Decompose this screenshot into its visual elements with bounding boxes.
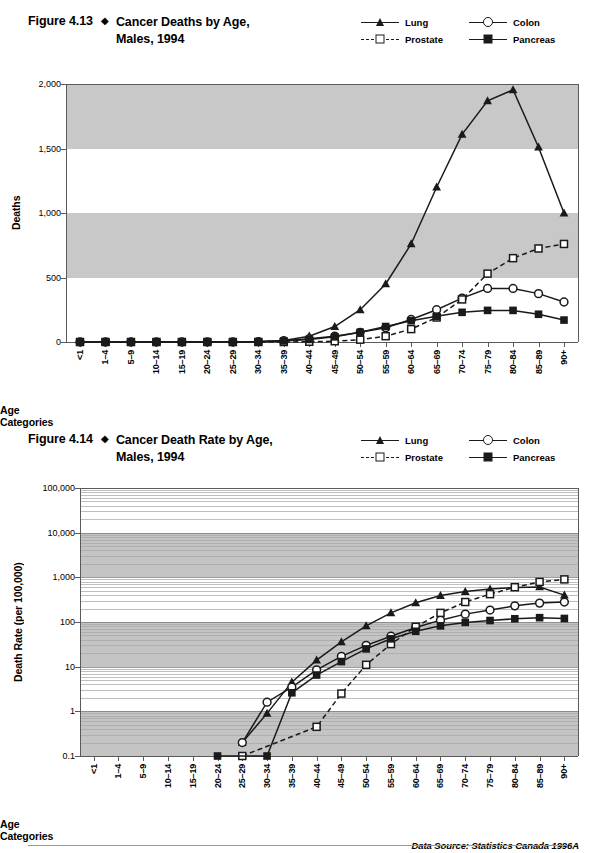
data-point-marker — [486, 617, 494, 625]
data-point-marker — [312, 656, 321, 664]
data-point-marker — [331, 333, 339, 341]
data-point-marker — [509, 307, 517, 315]
figure-4-13-legend: Lung Colon Prostate Pancreas — [360, 16, 592, 45]
legend-item-lung: Lung — [360, 16, 468, 28]
legend-item-prostate: Prostate — [360, 451, 468, 463]
figure-4-13-heading: Figure 4.13 ◆ Cancer Deaths by Age, Male… — [28, 14, 358, 47]
data-point-marker — [560, 208, 569, 216]
legend-item-pancreas: Pancreas — [468, 33, 586, 45]
colon-line-icon — [468, 16, 508, 28]
figure-4-14-number: Figure 4.14 — [28, 432, 93, 446]
open-square-icon — [376, 35, 385, 44]
data-point-marker — [535, 245, 542, 252]
legend-label-lung: Lung — [405, 435, 428, 446]
data-point-marker — [509, 85, 518, 93]
data-point-marker — [102, 338, 110, 346]
data-point-marker — [407, 239, 416, 247]
data-point-marker — [362, 645, 370, 653]
figure-4-13-title: Cancer Deaths by Age, Males, 1994 — [116, 14, 250, 47]
series-line — [80, 90, 564, 342]
legend-item-pancreas: Pancreas — [468, 451, 586, 463]
lung-line-icon — [360, 434, 400, 446]
data-point-marker — [560, 316, 568, 324]
data-point-marker — [461, 619, 469, 627]
data-point-marker — [305, 336, 313, 344]
data-point-marker — [487, 591, 494, 598]
filled-triangle-icon — [376, 18, 384, 26]
data-point-marker — [535, 290, 543, 298]
series-pancreas — [214, 614, 568, 760]
figure-4-13-title-line-1: Cancer Deaths by Age, — [116, 15, 250, 29]
data-point-marker — [362, 621, 371, 629]
legend-label-colon: Colon — [513, 435, 540, 446]
data-point-marker — [461, 610, 469, 618]
prostate-line-icon — [360, 33, 400, 45]
page-root: Figure 4.13 ◆ Cancer Deaths by Age, Male… — [0, 0, 595, 853]
open-square-icon — [376, 453, 385, 462]
data-point-marker — [214, 752, 222, 760]
data-point-marker — [153, 338, 161, 346]
data-point-marker — [510, 255, 517, 262]
figure-4-13-number: Figure 4.13 — [28, 14, 93, 28]
data-point-marker — [561, 576, 568, 583]
data-point-marker — [363, 661, 370, 668]
series-line — [80, 288, 564, 342]
series-colon — [238, 598, 568, 746]
footer-rule — [28, 845, 567, 846]
data-point-marker — [382, 333, 389, 340]
figure-4-14-heading: Figure 4.14 ◆ Cancer Death Rate by Age, … — [28, 432, 358, 465]
figure-4-14-title-line-1: Cancer Death Rate by Age, — [116, 433, 273, 447]
series-colon — [76, 285, 568, 346]
data-point-marker — [338, 690, 345, 697]
legend-label-pancreas: Pancreas — [513, 34, 555, 45]
data-point-marker — [356, 329, 364, 337]
data-point-marker — [382, 323, 390, 331]
legend-label-prostate: Prostate — [405, 452, 443, 463]
figure-4-14-title-line-2: Males, 1994 — [116, 450, 184, 464]
filled-square-icon — [484, 453, 493, 462]
data-point-marker — [408, 326, 415, 333]
figure-4-13-series-layer — [0, 70, 595, 470]
legend-label-lung: Lung — [405, 17, 428, 28]
legend-item-colon: Colon — [468, 16, 586, 28]
filled-square-icon — [484, 35, 493, 44]
data-point-marker — [536, 599, 544, 607]
figure-4-13: Figure 4.13 ◆ Cancer Deaths by Age, Male… — [0, 14, 595, 404]
data-point-marker — [229, 338, 237, 346]
data-point-marker — [357, 336, 364, 343]
data-point-marker — [535, 310, 543, 318]
diamond-icon: ◆ — [101, 433, 109, 446]
data-point-marker — [288, 689, 296, 697]
figure-4-14-legend: Lung Colon Prostate Pancreas — [360, 434, 592, 463]
series-prostate — [77, 240, 568, 345]
figure-4-13-title-line-2: Males, 1994 — [116, 32, 184, 46]
filled-triangle-icon — [376, 436, 384, 444]
data-point-marker — [484, 270, 491, 277]
data-point-marker — [484, 307, 492, 315]
series-lung — [76, 85, 569, 345]
data-point-marker — [407, 317, 415, 325]
data-point-marker — [238, 739, 246, 747]
legend-label-colon: Colon — [513, 17, 540, 28]
data-point-marker — [458, 309, 466, 317]
data-point-marker — [313, 671, 321, 679]
data-point-marker — [534, 143, 543, 151]
lung-line-icon — [360, 16, 400, 28]
data-point-marker — [338, 658, 346, 666]
figure-4-14-series-layer — [0, 474, 595, 853]
data-point-marker — [204, 338, 212, 346]
data-point-marker — [313, 723, 320, 730]
diamond-icon: ◆ — [101, 15, 109, 28]
open-circle-icon — [483, 435, 493, 445]
colon-line-icon — [468, 434, 508, 446]
series-pancreas — [76, 307, 568, 346]
data-point-marker — [560, 240, 567, 247]
data-point-marker — [178, 338, 186, 346]
pancreas-line-icon — [468, 33, 508, 45]
data-point-marker — [76, 338, 84, 346]
legend-label-prostate: Prostate — [405, 34, 443, 45]
data-point-marker — [561, 615, 569, 623]
figure-4-14: Figure 4.14 ◆ Cancer Death Rate by Age, … — [0, 432, 595, 832]
figure-4-14-title: Cancer Death Rate by Age, Males, 1994 — [116, 432, 273, 465]
data-point-marker — [437, 609, 444, 616]
